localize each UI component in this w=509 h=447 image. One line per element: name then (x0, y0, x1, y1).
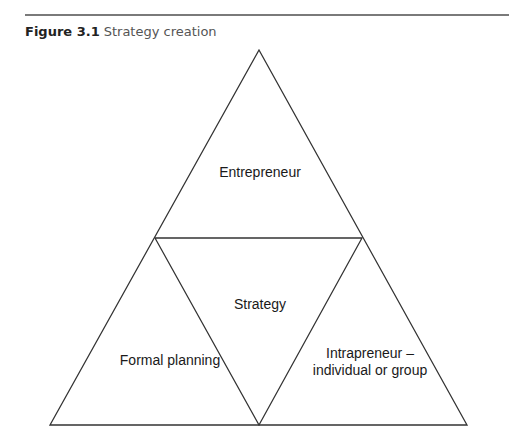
label-entrepreneur: Entrepreneur (200, 164, 320, 181)
label-intrapreneur: Intrapreneur – individual or group (295, 345, 445, 379)
strategy-triangle-diagram (0, 0, 509, 447)
label-intrapreneur-line1: Intrapreneur – (295, 345, 445, 362)
inner-triangle (155, 238, 362, 425)
label-intrapreneur-line2: individual or group (295, 362, 445, 379)
label-formal-planning: Formal planning (100, 352, 240, 369)
label-strategy: Strategy (200, 296, 320, 313)
